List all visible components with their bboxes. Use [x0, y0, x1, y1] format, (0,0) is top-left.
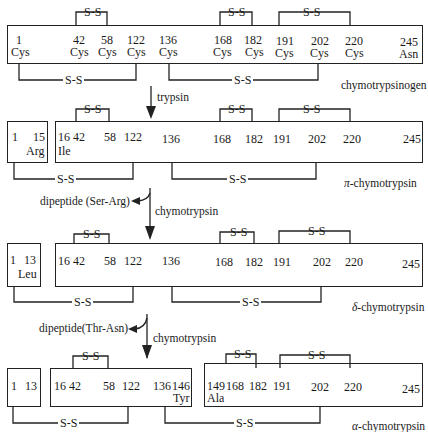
residue-pos: 182: [245, 133, 263, 146]
residue-pos: 1: [10, 254, 16, 267]
ss-label: S-S: [230, 226, 247, 239]
residue-pos: 168: [213, 133, 231, 146]
residue-pos: 168: [226, 380, 244, 393]
residue-name: Cys: [127, 46, 146, 59]
residue-pos: 220: [344, 381, 362, 394]
ss-label: S-S: [84, 6, 101, 19]
residue-pos: 15: [33, 131, 45, 144]
stage-name: π-chymotrypsin: [344, 177, 417, 189]
residue-pos: 182: [245, 256, 263, 269]
ss-label: S-S: [228, 103, 245, 116]
residue-pos: 58: [103, 380, 115, 393]
ss-label: S-S: [240, 296, 261, 309]
ss-label: S-S: [84, 103, 101, 116]
residue-name: Leu: [18, 268, 37, 281]
ss-label: S-S: [83, 228, 100, 241]
stage-name: α-chymotrypsin: [352, 420, 425, 432]
residue-pos: 58: [104, 255, 116, 268]
residue-name: Ile: [58, 145, 71, 158]
residue-pos: 42: [73, 131, 85, 144]
residue-pos: 1: [11, 380, 17, 393]
enzyme-label: chymotrypsin: [153, 332, 216, 344]
residue-pos: 136: [162, 255, 180, 268]
residue-pos: 58: [104, 131, 116, 144]
name-suffix: -chymotrypsin: [350, 177, 417, 189]
residue-name: Tyr: [173, 392, 190, 405]
residue-pos: 220: [343, 133, 361, 146]
name-suffix: -chymotrypsin: [358, 420, 425, 432]
residue-name: Cys: [70, 46, 89, 59]
residue-pos: 42: [69, 380, 81, 393]
released-peptide: dipeptide(Thr-Asn): [39, 322, 128, 334]
residue-pos: 16: [54, 380, 66, 393]
enzyme-label: chymotrypsin: [155, 205, 218, 217]
residue-pos: 202: [313, 256, 331, 269]
ss-label: S-S: [72, 296, 93, 309]
released-peptide: dipeptide (Ser-Arg): [40, 195, 130, 207]
stage-name: chymotrypsinogen: [341, 79, 427, 91]
ss-label: S-S: [82, 350, 99, 363]
residue-pos: 245: [403, 133, 421, 146]
ss-label: S-S: [228, 6, 245, 19]
ss-label: S-S: [63, 74, 84, 87]
residue-name: Cys: [275, 47, 294, 60]
residue-pos: 136: [153, 380, 171, 393]
residue-pos: 16: [58, 255, 70, 268]
residue-name: Cys: [310, 47, 329, 60]
residue-pos: 191: [273, 256, 291, 269]
residue-pos: 122: [124, 255, 142, 268]
residue-pos: 1: [12, 131, 18, 144]
residue-pos: 245: [402, 383, 420, 396]
residue-pos: 13: [25, 380, 37, 393]
ss-label: S-S: [234, 417, 255, 430]
residue-name: Cys: [213, 46, 232, 59]
residue-pos: 13: [24, 254, 36, 267]
residue-pos: 202: [311, 381, 329, 394]
ss-label: S-S: [58, 417, 79, 430]
ss-label: S-S: [227, 173, 248, 186]
name-suffix: -chymotrypsin: [357, 301, 424, 313]
residue-pos: 202: [308, 133, 326, 146]
residue-name: Asn: [399, 48, 418, 61]
residue-pos: 122: [124, 131, 142, 144]
ss-label: S-S: [232, 74, 253, 87]
ss-label: S-S: [308, 225, 325, 238]
residue-pos: 16: [58, 131, 70, 144]
ss-label: S-S: [234, 348, 251, 361]
residue-pos: 220: [345, 256, 363, 269]
residue-pos: 122: [122, 380, 140, 393]
ss-label: S-S: [303, 103, 320, 116]
residue-pos: 191: [273, 380, 291, 393]
ss-label: S-S: [308, 349, 325, 362]
residue-name: Ala: [207, 392, 224, 405]
residue-name: Cys: [245, 46, 264, 59]
residue-pos: 191: [273, 133, 291, 146]
ss-label: S-S: [55, 173, 76, 186]
residue-pos: 245: [402, 258, 420, 271]
residue-name: Arg: [26, 145, 44, 158]
stage-name: δ-chymotrypsin: [352, 301, 424, 313]
residue-pos: 182: [249, 380, 267, 393]
residue-pos: 168: [215, 256, 233, 269]
residue-name: Cys: [11, 46, 30, 59]
residue-pos: 42: [73, 255, 85, 268]
residue-pos: 136: [162, 133, 180, 146]
residue-name: Cys: [159, 46, 178, 59]
residue-name: Cys: [98, 46, 117, 59]
enzyme-label: trypsin: [157, 91, 189, 103]
ss-label: S-S: [303, 6, 320, 19]
residue-name: Cys: [345, 47, 364, 60]
